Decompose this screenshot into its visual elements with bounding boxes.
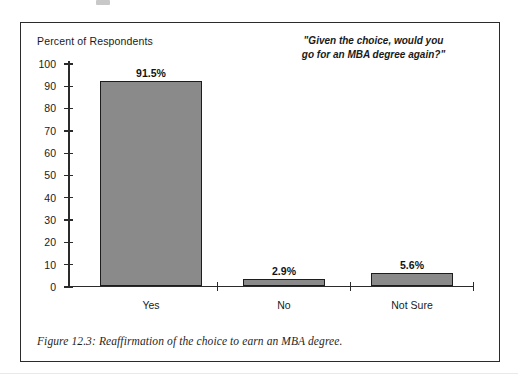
y-axis-tick-label: 10 bbox=[44, 259, 56, 271]
y-axis-tick-label: 40 bbox=[44, 192, 56, 204]
y-axis-tick: 40 bbox=[64, 197, 73, 198]
y-axis-tick-label: 60 bbox=[44, 147, 56, 159]
scan-artifact bbox=[96, 0, 110, 5]
y-axis-tick-label: 100 bbox=[38, 58, 56, 70]
figure-caption: Figure 12.3: Reaffirmation of the choice… bbox=[37, 335, 342, 347]
x-axis-tick bbox=[217, 282, 218, 291]
y-axis-tick: 80 bbox=[64, 108, 73, 109]
y-axis-tick-label: 70 bbox=[44, 125, 56, 137]
y-axis-tick: 90 bbox=[64, 86, 73, 87]
y-axis-tick: 100 bbox=[64, 63, 73, 64]
y-axis-tick: 0 bbox=[64, 286, 73, 287]
x-axis-tick bbox=[473, 282, 474, 291]
x-axis-tick bbox=[350, 282, 351, 291]
bar-yes bbox=[100, 81, 202, 285]
y-axis-tick-label: 80 bbox=[44, 102, 56, 114]
x-axis-line bbox=[68, 286, 474, 288]
bar-value-label: 2.9% bbox=[272, 265, 296, 277]
y-axis-tick: 60 bbox=[64, 153, 73, 154]
bar-value-label: 91.5% bbox=[136, 67, 166, 79]
y-axis-tick: 50 bbox=[64, 175, 73, 176]
bar-no bbox=[243, 279, 325, 285]
y-axis-tick: 70 bbox=[64, 130, 73, 131]
scan-edge-artifact bbox=[0, 373, 518, 374]
y-axis-tick: 10 bbox=[64, 264, 73, 265]
chart-subtitle-quote: "Given the choice, would you go for an M… bbox=[266, 34, 481, 62]
x-axis-category-label: Yes bbox=[142, 299, 159, 311]
x-axis-category-label: Not Sure bbox=[391, 299, 432, 311]
bar-not-sure bbox=[371, 273, 453, 285]
figure-frame: Percent of Respondents "Given the choice… bbox=[20, 22, 500, 362]
y-axis-tick-label: 50 bbox=[44, 169, 56, 181]
y-axis-tick-label: 20 bbox=[44, 236, 56, 248]
y-axis-title: Percent of Respondents bbox=[37, 35, 153, 47]
y-axis-tick-label: 0 bbox=[50, 281, 56, 293]
quote-line-1: "Given the choice, would you bbox=[266, 34, 481, 48]
plot-area: 010203040506070809010091.5%Yes2.9%No5.6%… bbox=[68, 64, 478, 287]
x-axis-category-label: No bbox=[277, 299, 290, 311]
y-axis-tick: 20 bbox=[64, 242, 73, 243]
bar-value-label: 5.6% bbox=[400, 259, 424, 271]
y-axis-tick-label: 30 bbox=[44, 214, 56, 226]
y-axis-tick-label: 90 bbox=[44, 80, 56, 92]
quote-line-2: go for an MBA degree again?" bbox=[266, 48, 481, 62]
y-axis-tick: 30 bbox=[64, 219, 73, 220]
